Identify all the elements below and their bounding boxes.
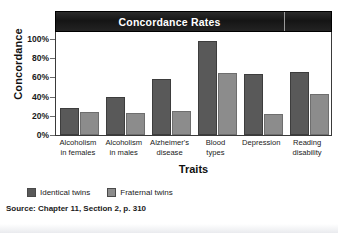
category-label-line: in females <box>55 148 101 158</box>
legend-label: Fraternal twins <box>120 188 172 197</box>
x-axis-category-label: Bloodtypes <box>193 138 239 157</box>
legend-swatch-icon <box>27 188 36 197</box>
category-label-line: Alcoholism <box>55 138 101 148</box>
bar-fraternal-3 <box>218 73 237 135</box>
concordance-rates-figure: Concordance Rates 0%20%40%60%80%100% Con… <box>0 0 338 233</box>
x-axis-category-label: Depression <box>238 138 284 148</box>
chart-legend: Identical twinsFraternal twins <box>27 187 190 198</box>
bar-identical-2 <box>152 79 171 135</box>
category-label-line: Alcoholism <box>101 138 147 148</box>
y-axis-title: Concordance <box>12 16 26 112</box>
category-label-line: in males <box>101 148 147 158</box>
bar-identical-3 <box>198 41 217 135</box>
source-note: Source: Chapter 11, Section 2, p. 310 <box>6 204 146 213</box>
category-label-line: disability <box>284 148 330 158</box>
bar-identical-0 <box>60 108 79 135</box>
category-label-line: Reading <box>284 138 330 148</box>
y-axis-tick-label: 60% <box>3 73 49 82</box>
y-axis-tick-label: 100% <box>3 35 49 44</box>
x-axis-category-label: Alcoholismin males <box>101 138 147 157</box>
y-axis-tick-label: 40% <box>3 93 49 102</box>
bar-fraternal-5 <box>310 94 329 135</box>
legend-item-identical-twins: Identical twins <box>27 188 90 197</box>
x-axis-category-label: Readingdisability <box>284 138 330 157</box>
category-label-line: types <box>193 148 239 158</box>
x-axis-title: Traits <box>55 163 332 175</box>
bar-fraternal-1 <box>126 113 145 135</box>
category-label-line: Alzheimer's <box>147 138 193 148</box>
bar-fraternal-4 <box>264 114 283 135</box>
legend-swatch-icon <box>107 188 116 197</box>
chart-title-bar: Concordance Rates <box>55 11 332 32</box>
x-axis-category-label: Alcoholismin females <box>55 138 101 157</box>
bottom-strip <box>0 224 338 233</box>
x-axis-category-labels: Alcoholismin femalesAlcoholismin malesAl… <box>55 138 332 160</box>
legend-label: Identical twins <box>40 188 90 197</box>
title-divider <box>284 12 285 31</box>
category-label-line: Blood <box>193 138 239 148</box>
plot-area <box>56 33 331 135</box>
bar-identical-5 <box>290 72 309 135</box>
bar-identical-4 <box>244 74 263 135</box>
bar-fraternal-0 <box>80 112 99 135</box>
legend-item-fraternal-twins: Fraternal twins <box>107 188 172 197</box>
y-axis-tick-label: 80% <box>3 54 49 63</box>
x-axis-category-label: Alzheimer'sdisease <box>147 138 193 157</box>
category-label-line: disease <box>147 148 193 158</box>
chart-title: Concordance Rates <box>56 12 283 31</box>
category-label-line: Depression <box>238 138 284 148</box>
y-axis-tick-label: 0% <box>3 131 49 140</box>
y-axis-tick-label: 20% <box>3 112 49 121</box>
bar-fraternal-2 <box>172 111 191 135</box>
bar-identical-1 <box>106 97 125 135</box>
